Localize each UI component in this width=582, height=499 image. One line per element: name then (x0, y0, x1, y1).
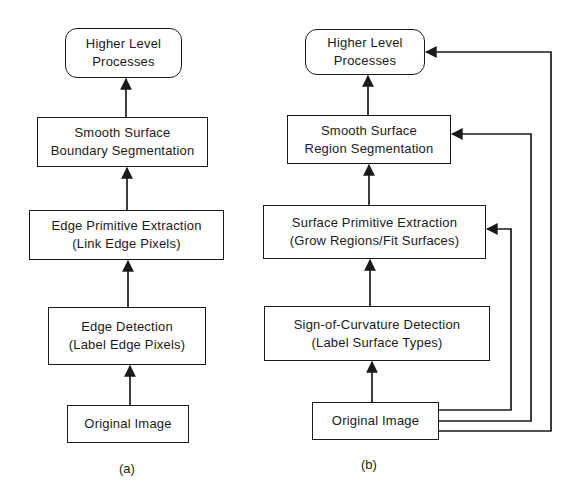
node-label-line1: Edge Primitive Extraction (51, 217, 201, 235)
node-b-smooth-surface-region: Smooth Surface Region Segmentation (287, 115, 451, 164)
node-label-line1: Original Image (84, 415, 171, 433)
node-label-line2: (Label Surface Types) (311, 334, 442, 352)
node-label-line2: (Label Edge Pixels) (69, 336, 186, 354)
node-label-line2: Processes (92, 53, 155, 71)
caption-a: (a) (119, 461, 135, 476)
node-label-line2: Processes (334, 52, 397, 70)
bypass-original-to-smooth (438, 134, 531, 421)
node-label-line2: (Grow Regions/Fit Surfaces) (290, 232, 459, 250)
node-a-higher-level-processes: Higher Level Processes (65, 28, 182, 78)
node-label-line2: (Link Edge Pixels) (72, 235, 180, 253)
node-label-line1: Sign-of-Curvature Detection (294, 316, 461, 334)
caption-b: (b) (361, 457, 377, 472)
node-a-original-image: Original Image (67, 405, 189, 443)
node-label-line1: Original Image (332, 412, 419, 430)
node-label-line1: Higher Level (327, 34, 402, 52)
node-label-line2: Boundary Segmentation (51, 142, 195, 160)
node-a-edge-detection: Edge Detection (Label Edge Pixels) (48, 307, 206, 365)
node-b-higher-level-processes: Higher Level Processes (305, 29, 425, 75)
node-label-line1: Higher Level (86, 35, 161, 53)
node-label-line1: Surface Primitive Extraction (292, 214, 457, 232)
node-a-edge-primitive-extraction: Edge Primitive Extraction (Link Edge Pix… (29, 210, 224, 260)
node-label-line1: Smooth Surface (74, 124, 170, 142)
node-a-smooth-surface-boundary: Smooth Surface Boundary Segmentation (37, 117, 208, 167)
node-label-line2: Region Segmentation (305, 140, 434, 158)
node-b-surface-primitive-extraction: Surface Primitive Extraction (Grow Regio… (263, 205, 486, 259)
node-b-original-image: Original Image (312, 402, 439, 440)
node-label-line1: Edge Detection (81, 318, 173, 336)
node-b-sign-of-curvature-detection: Sign-of-Curvature Detection (Label Surfa… (264, 306, 490, 361)
node-label-line1: Smooth Surface (321, 122, 417, 140)
